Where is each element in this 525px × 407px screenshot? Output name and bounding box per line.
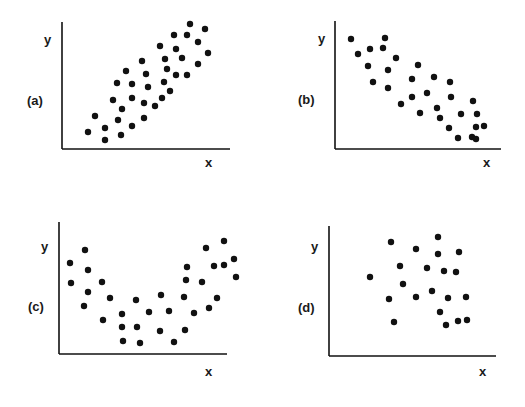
data-point <box>464 317 470 323</box>
scatter-plots-canvas <box>0 0 525 407</box>
data-point <box>211 263 217 269</box>
data-point <box>435 234 441 240</box>
panel-c-y-label: y <box>41 239 48 254</box>
data-point <box>119 324 125 330</box>
panel-b-tag: (b) <box>298 92 315 107</box>
data-point <box>119 106 125 112</box>
data-point <box>141 100 147 106</box>
data-point <box>380 45 386 51</box>
data-point <box>413 246 419 252</box>
data-point <box>202 26 208 32</box>
data-point <box>179 55 185 61</box>
data-point <box>221 262 227 268</box>
data-point <box>141 115 147 121</box>
data-point <box>365 63 371 69</box>
data-point <box>102 137 108 143</box>
data-point <box>166 308 172 314</box>
data-point <box>184 264 190 270</box>
data-point <box>157 43 163 49</box>
data-point <box>184 32 190 38</box>
data-point <box>120 338 126 344</box>
panel-d-y-label: y <box>311 239 318 254</box>
data-point <box>367 274 373 280</box>
data-point <box>431 74 437 80</box>
panel-d-tag: (d) <box>298 300 315 315</box>
data-point <box>182 327 188 333</box>
data-point <box>195 61 201 67</box>
data-point <box>453 269 459 275</box>
data-point <box>455 318 461 324</box>
data-point <box>398 101 404 107</box>
data-point <box>85 267 91 273</box>
data-point <box>463 294 469 300</box>
data-point <box>443 322 449 328</box>
data-point <box>203 245 209 251</box>
scatter-panel-b <box>335 21 501 149</box>
data-point <box>92 113 98 119</box>
data-point <box>445 295 451 301</box>
data-point <box>391 319 397 325</box>
data-point <box>129 123 135 129</box>
data-point <box>424 265 430 271</box>
data-point <box>435 251 441 257</box>
data-point <box>85 289 91 295</box>
panel-c-tag: (c) <box>28 299 44 314</box>
data-point <box>158 292 164 298</box>
scatter-panel-d <box>329 226 496 356</box>
data-point <box>123 68 129 74</box>
data-point <box>231 256 237 262</box>
data-point <box>159 95 165 101</box>
data-point <box>173 46 179 52</box>
data-point <box>100 317 106 323</box>
panel-b-y-label: y <box>318 31 325 46</box>
panel-d-x-label: x <box>479 364 486 379</box>
data-point <box>81 303 87 309</box>
data-point <box>173 72 179 78</box>
data-point <box>400 281 406 287</box>
scatter-panel-c <box>59 222 239 354</box>
data-point <box>348 36 354 42</box>
data-point <box>181 294 187 300</box>
panel-a-tag: (a) <box>27 93 43 108</box>
data-point <box>447 79 453 85</box>
data-point <box>137 340 143 346</box>
data-point <box>107 295 113 301</box>
data-point <box>143 71 149 77</box>
data-point <box>85 129 91 135</box>
data-point <box>473 124 479 130</box>
data-point <box>191 310 197 316</box>
data-point <box>129 81 135 87</box>
data-point <box>409 76 415 82</box>
data-point <box>102 125 108 131</box>
data-point <box>184 72 190 78</box>
data-point <box>118 132 124 138</box>
data-point <box>119 311 125 317</box>
data-point <box>448 94 454 100</box>
data-point <box>146 309 152 315</box>
data-point <box>164 66 170 72</box>
scatter-panel-a <box>62 21 230 149</box>
data-point <box>199 279 205 285</box>
data-point <box>114 80 120 86</box>
data-point <box>446 125 452 131</box>
data-point <box>434 105 440 111</box>
data-point <box>456 249 462 255</box>
data-point <box>133 297 139 303</box>
data-point <box>214 295 220 301</box>
data-point <box>397 263 403 269</box>
data-point <box>205 50 211 56</box>
panel-a-y-label: y <box>44 32 51 47</box>
data-point <box>67 260 73 266</box>
data-point <box>115 117 121 123</box>
data-point <box>187 21 193 27</box>
data-point <box>68 280 74 286</box>
data-point <box>110 97 116 103</box>
data-point <box>388 239 394 245</box>
data-point <box>385 85 391 91</box>
data-point <box>134 324 140 330</box>
data-point <box>152 103 158 109</box>
data-point <box>415 62 421 68</box>
data-point <box>441 268 447 274</box>
data-point <box>129 95 135 101</box>
data-point <box>429 288 435 294</box>
